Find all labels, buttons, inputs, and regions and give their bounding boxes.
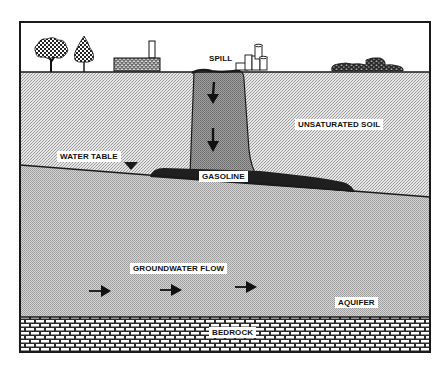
label-aquifer: AQUIFER xyxy=(335,297,378,308)
label-spill: SPILL xyxy=(206,53,235,64)
label-water-table: WATER TABLE xyxy=(57,151,121,162)
label-groundwater-flow: GROUNDWATER FLOW xyxy=(130,263,227,274)
label-unsaturated-soil: UNSATURATED SOIL xyxy=(295,119,383,130)
label-bedrock: BEDROCK xyxy=(209,327,256,338)
label-gasoline: GASOLINE xyxy=(199,171,248,182)
